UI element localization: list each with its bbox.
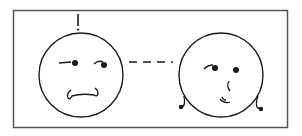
exclamation-mark-icon (77, 14, 79, 31)
right-face-left-curl-icon (179, 96, 185, 109)
diagram-canvas (0, 0, 302, 136)
right-face-right-curl-icon (256, 96, 263, 111)
right-face-outline (179, 33, 263, 117)
right-face (179, 33, 263, 117)
right-face-left-eye-icon (204, 65, 218, 71)
left-face-left-eye-icon (59, 60, 78, 66)
right-face-smile-mouth (220, 97, 230, 103)
right-face-nose (228, 81, 230, 91)
right-face-right-eye-icon (233, 67, 239, 73)
left-face-right-eye-icon (94, 61, 107, 68)
left-face-frown-mouth (67, 88, 98, 99)
left-face (39, 33, 123, 117)
left-face-outline (39, 33, 123, 117)
frame-border (14, 11, 288, 128)
